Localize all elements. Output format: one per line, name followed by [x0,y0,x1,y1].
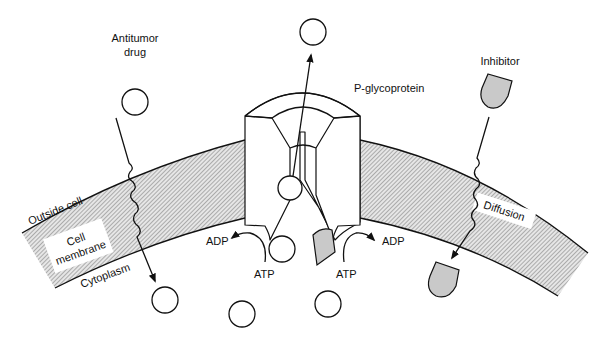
drug-molecule-cytoplasm-left [152,287,178,313]
drug-molecule-cytoplasm-2 [315,291,341,317]
p-glycoprotein-label: P-glycoprotein [354,82,424,94]
p-glycoprotein-diagram: Cell membrane Diffusion Outside cell Cyt… [0,0,606,345]
membrane-right-band [360,140,588,296]
drug-molecule-in-pump [278,176,302,200]
inhibitor-molecule-outside [481,74,512,108]
expelled-drug-molecule [300,19,326,45]
antitumor-drug-label-line2: drug [124,46,146,58]
atp-hydrolysis-arc-right [344,233,375,262]
adp-label-right: ADP [382,235,405,247]
antitumor-drug-label-line1: Antitumor [111,32,158,44]
drug-molecule-at-pump-entry [269,236,295,262]
atp-label-right: ATP [336,268,357,280]
atp-hydrolysis-arc-left [232,233,265,262]
inhibitor-label: Inhibitor [480,55,519,67]
antitumor-drug-molecule [122,89,148,115]
drug-molecule-cytoplasm-1 [229,301,255,327]
inhibitor-molecule-at-pump [313,229,335,265]
inhibitor-molecule-cytoplasm [428,262,459,297]
atp-label-left: ATP [254,268,275,280]
adp-label-left: ADP [206,235,229,247]
